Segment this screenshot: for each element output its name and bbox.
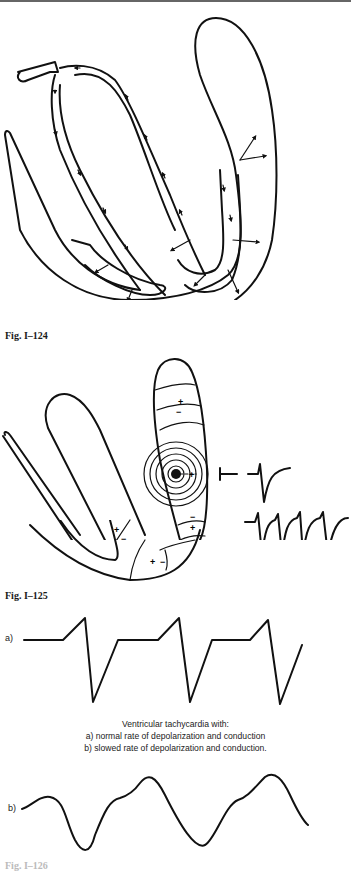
heart-conduction-diagram	[0, 0, 351, 300]
figure-caption: Ventricular tachycardia with: a) normal …	[0, 718, 351, 754]
ventricle-lower-outline: + −	[0, 520, 351, 590]
ecg-trace-a	[0, 610, 351, 710]
polarity-plus-2: +	[189, 470, 194, 480]
ecg-trace-b	[0, 765, 351, 865]
caption-line-3: b) slowed rate of depolarization and con…	[0, 742, 351, 754]
figure-label-3: Fig. I–126	[5, 860, 48, 871]
polarity-minus-4: −	[160, 557, 165, 567]
figure-label-1: Fig. I–124	[5, 330, 48, 341]
figure-label-2: Fig. I–125	[5, 590, 48, 601]
caption-line-2: a) normal rate of depolarization and con…	[0, 730, 351, 742]
polarity-minus-1: −	[176, 407, 181, 417]
polarity-plus-5: +	[150, 557, 155, 567]
ventricle-ectopic-focus-diagram: + − + − + + −	[0, 350, 351, 540]
caption-line-1: Ventricular tachycardia with:	[0, 718, 351, 730]
polarity-plus-1: +	[178, 397, 183, 407]
